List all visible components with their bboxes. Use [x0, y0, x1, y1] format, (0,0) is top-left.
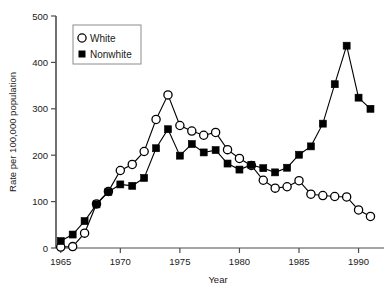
data-point-white	[212, 128, 220, 136]
data-point-white	[307, 190, 315, 198]
data-point-nonwhite	[260, 165, 267, 172]
data-point-nonwhite	[224, 160, 231, 167]
data-point-white	[366, 212, 374, 220]
data-point-nonwhite	[69, 231, 76, 238]
data-point-nonwhite	[141, 174, 148, 181]
x-tick-label: 1970	[110, 256, 131, 267]
data-point-nonwhite	[236, 166, 243, 173]
data-point-white	[140, 147, 148, 155]
data-point-white	[164, 91, 172, 99]
series-line-white	[61, 95, 371, 247]
data-point-white	[80, 229, 88, 237]
data-point-nonwhite	[307, 143, 314, 150]
data-point-nonwhite	[331, 81, 338, 88]
x-tick-label: 1980	[229, 256, 250, 267]
data-point-nonwhite	[164, 126, 171, 133]
data-point-white	[200, 131, 208, 139]
data-point-nonwhite	[176, 152, 183, 159]
data-point-white	[271, 184, 279, 192]
data-point-white	[283, 183, 291, 191]
series-nonwhite	[57, 42, 374, 244]
data-point-nonwhite	[129, 182, 136, 189]
data-point-white	[188, 127, 196, 135]
data-point-nonwhite	[117, 181, 124, 188]
x-axis-title: Year	[208, 274, 227, 285]
x-tick-label: 1975	[169, 256, 190, 267]
data-point-white	[152, 115, 160, 123]
data-point-nonwhite	[105, 188, 112, 195]
data-point-white	[176, 121, 184, 129]
data-point-nonwhite	[343, 42, 350, 49]
data-point-white	[235, 154, 243, 162]
data-point-nonwhite	[296, 151, 303, 158]
y-tick-label: 0	[43, 243, 48, 254]
data-point-nonwhite	[81, 218, 88, 225]
data-point-nonwhite	[153, 145, 160, 152]
data-point-nonwhite	[200, 149, 207, 156]
data-point-nonwhite	[188, 141, 195, 148]
y-tick-label: 300	[32, 103, 48, 114]
data-point-white	[319, 191, 327, 199]
y-tick-label: 400	[32, 57, 48, 68]
data-point-nonwhite	[93, 201, 100, 208]
data-point-nonwhite	[212, 147, 219, 154]
x-tick-label: 1965	[50, 256, 71, 267]
y-tick-label: 100	[32, 196, 48, 207]
data-point-white	[223, 146, 231, 154]
x-tick-label: 1990	[348, 256, 369, 267]
legend-marker-filled-square-icon	[79, 51, 86, 58]
data-point-nonwhite	[367, 105, 374, 112]
data-point-white	[128, 160, 136, 168]
y-axis-title: Rate per 100,000 population	[7, 72, 18, 192]
data-point-nonwhite	[284, 164, 291, 171]
x-tick-label: 1985	[288, 256, 309, 267]
legend-label: White	[90, 33, 116, 44]
series-white	[57, 91, 375, 251]
data-point-white	[295, 177, 303, 185]
chart-figure: 0100200300400500196519701975198019851990…	[0, 0, 388, 295]
data-point-nonwhite	[57, 238, 64, 245]
data-point-nonwhite	[319, 120, 326, 127]
legend-marker-open-circle-icon	[78, 34, 86, 42]
series-line-nonwhite	[61, 46, 371, 241]
data-point-white	[259, 176, 267, 184]
data-point-white	[343, 193, 351, 201]
data-point-nonwhite	[272, 169, 279, 176]
legend-label: Nonwhite	[90, 49, 132, 60]
data-point-nonwhite	[355, 94, 362, 101]
line-chart: 0100200300400500196519701975198019851990…	[0, 0, 388, 295]
legend: WhiteNonwhite	[73, 25, 141, 64]
data-point-white	[116, 166, 124, 174]
y-tick-label: 500	[32, 11, 48, 22]
data-point-white	[69, 243, 77, 251]
data-point-white	[331, 192, 339, 200]
data-point-white	[354, 206, 362, 214]
y-tick-label: 200	[32, 150, 48, 161]
data-point-nonwhite	[248, 161, 255, 168]
